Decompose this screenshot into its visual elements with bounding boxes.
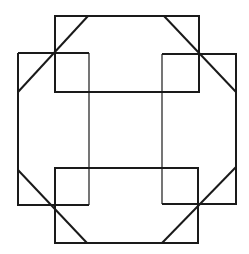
geometric-figure <box>0 0 249 254</box>
diagonal-bottom-left <box>18 170 87 243</box>
